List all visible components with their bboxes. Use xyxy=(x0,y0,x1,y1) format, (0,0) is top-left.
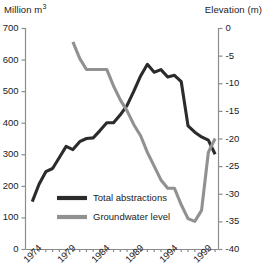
right-tick-label--10: -10 xyxy=(226,77,240,88)
legend-swatches xyxy=(57,192,97,232)
right-tick-label--40: -40 xyxy=(226,243,240,254)
right-tick-label--35: -35 xyxy=(226,215,240,226)
right-tick-label--30: -30 xyxy=(226,188,240,199)
right-tick-label--15: -15 xyxy=(226,105,240,116)
left-tick-label-700: 700 xyxy=(0,22,19,33)
legend-label-groundwater-level: Groundwater level xyxy=(93,211,170,222)
left-tick-label-600: 600 xyxy=(0,54,19,65)
left-tick-label-400: 400 xyxy=(0,117,19,128)
right-tick-label--5: -5 xyxy=(226,50,234,61)
right-tick-label-0: 0 xyxy=(226,22,231,33)
right-axis-ticks xyxy=(219,29,223,250)
right-tick-label--20: -20 xyxy=(226,133,240,144)
left-tick-label-0: 0 xyxy=(0,243,19,254)
right-tick-label--25: -25 xyxy=(226,160,240,171)
left-tick-label-100: 100 xyxy=(0,211,19,222)
chart-figure: Million m3 Elevation (m) 010020030040050… xyxy=(0,0,266,278)
line-total-abstractions xyxy=(32,64,215,201)
left-tick-label-500: 500 xyxy=(0,85,19,96)
left-tick-label-300: 300 xyxy=(0,148,19,159)
legend-label-total-abstractions: Total abstractions xyxy=(93,192,167,203)
left-tick-label-200: 200 xyxy=(0,180,19,191)
